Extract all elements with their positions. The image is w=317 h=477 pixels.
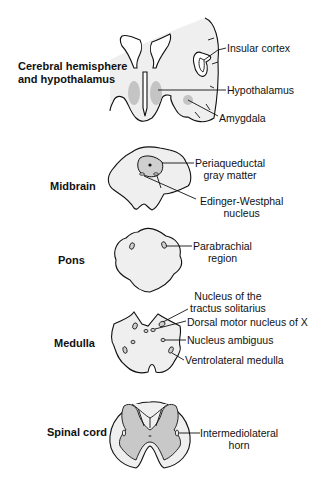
dorsal-motor-nucleus-x bbox=[151, 328, 155, 331]
label-edinger-westphal: Edinger-Westphal nucleus bbox=[200, 195, 283, 219]
label-line-2: horn bbox=[200, 439, 278, 451]
edinger-westphal-right bbox=[154, 173, 159, 176]
title-line-1: Cerebral hemisphere bbox=[18, 60, 127, 73]
central-canal bbox=[148, 435, 151, 437]
section-title-midbrain: Midbrain bbox=[50, 180, 96, 193]
nucleus-ambiguus bbox=[161, 338, 165, 341]
section-title-spinal-cord: Spinal cord bbox=[47, 426, 107, 439]
midbrain-section bbox=[108, 147, 196, 210]
hypothalamus-nucleus-left bbox=[128, 81, 140, 105]
medulla-section bbox=[112, 309, 188, 373]
label-line-2: region bbox=[193, 252, 252, 264]
pons-section bbox=[115, 229, 192, 292]
label-line-1: Intermediolateral bbox=[200, 427, 278, 439]
cerebral-aqueduct bbox=[148, 163, 151, 166]
section-title-cerebral-hemisphere: Cerebral hemisphere and hypothalamus bbox=[18, 60, 127, 86]
label-line-2: gray matter bbox=[195, 169, 265, 181]
label-ventrolateral-medulla: Ventrolateral medulla bbox=[185, 354, 284, 366]
label-line-1: Parabrachial bbox=[193, 240, 252, 252]
section-title-medulla: Medulla bbox=[54, 337, 95, 350]
label-line-2: nucleus bbox=[200, 207, 283, 219]
medulla-outline bbox=[112, 312, 181, 373]
label-line-1: Periaqueductal bbox=[195, 157, 265, 169]
label-amygdala: Amygdala bbox=[219, 112, 266, 124]
label-line-1: Nucleus of the bbox=[190, 290, 266, 302]
label-line-2: tractus solitarius bbox=[190, 302, 266, 314]
spinal-cord-section bbox=[110, 402, 200, 468]
label-hypothalamus: Hypothalamus bbox=[227, 84, 294, 96]
intermediolateral-horn-right bbox=[175, 430, 178, 436]
label-intermediolateral-horn: Intermediolateral horn bbox=[200, 427, 278, 451]
intermediolateral-horn-left bbox=[122, 430, 125, 436]
title-line-2: and hypothalamus bbox=[18, 73, 127, 86]
edinger-westphal-left bbox=[140, 173, 145, 176]
third-ventricle bbox=[143, 72, 147, 116]
label-nucleus-ambiguus: Nucleus ambiguus bbox=[187, 334, 273, 346]
label-insular-cortex: Insular cortex bbox=[227, 42, 290, 54]
label-dorsal-motor-nucleus: Dorsal motor nucleus of X bbox=[187, 316, 308, 328]
hypothalamus-nucleus-right bbox=[150, 81, 162, 105]
section-title-pons: Pons bbox=[58, 254, 85, 267]
label-nucleus-tractus-solitarius: Nucleus of the tractus solitarius bbox=[190, 290, 266, 314]
label-line-1: Edinger-Westphal bbox=[200, 195, 283, 207]
pons-outline bbox=[115, 229, 182, 292]
label-periaqueductal-gray: Periaqueductal gray matter bbox=[195, 157, 265, 181]
label-parabrachial-region: Parabrachial region bbox=[193, 240, 252, 264]
